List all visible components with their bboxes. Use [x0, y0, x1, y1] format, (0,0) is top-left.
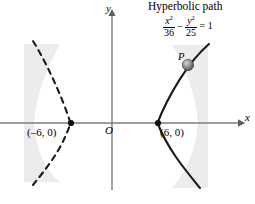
equation-term2-exponent: 2 [192, 14, 195, 21]
equation-term1-denominator: 36 [163, 28, 175, 39]
hyperbola-figure: Hyperbolic path x2 36 – y2 25 = 1 y x O … [0, 0, 255, 204]
equation-term1-exponent: 2 [170, 14, 173, 21]
left-vertex-label: (–6, 0) [27, 127, 56, 138]
x-axis-label: x [245, 112, 250, 123]
left-vertex-dot [68, 120, 74, 126]
equation-operator: – [178, 20, 183, 31]
y-axis-label: y [106, 3, 111, 14]
figure-canvas [0, 0, 255, 204]
left-shaded-region [24, 44, 60, 182]
right-vertex-label: (6, 0) [160, 127, 184, 138]
equation-term2-denominator: 25 [185, 28, 197, 39]
y-axis [108, 9, 115, 190]
hyperbola-equation: x2 36 – y2 25 = 1 [163, 15, 213, 38]
equation-term-1: x2 36 [163, 15, 175, 38]
figure-title: Hyperbolic path [148, 1, 222, 13]
origin-label: O [105, 125, 113, 136]
equation-term-2: y2 25 [185, 15, 197, 38]
equation-equals: = 1 [200, 20, 213, 31]
point-p-label: P [178, 52, 184, 63]
